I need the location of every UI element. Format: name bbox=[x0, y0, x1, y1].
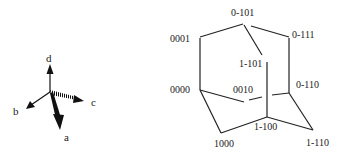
edge-0-101-1-101 bbox=[244, 25, 262, 55]
vertex-label-1-101: 1-101 bbox=[239, 58, 262, 69]
a-axis-arrowhead-icon bbox=[53, 114, 64, 130]
a-axis-label: a bbox=[64, 131, 69, 143]
axis-triad: d b c a bbox=[13, 52, 96, 143]
b-axis-label: b bbox=[13, 105, 19, 117]
b-axis-line bbox=[31, 92, 50, 105]
edge-0001-0-101 bbox=[200, 24, 243, 37]
edge-0010-0-110-a bbox=[249, 97, 262, 100]
b-axis-arrowhead-icon bbox=[26, 101, 35, 109]
edge-0010-0-110-b bbox=[272, 93, 289, 95]
vertex-label-0010: 0010 bbox=[233, 84, 253, 95]
vertex-label-1-110: 1-110 bbox=[306, 137, 329, 148]
figure: d b c a 0-101 0001 0-111 bbox=[0, 0, 344, 157]
vertex-label-0-101: 0-101 bbox=[231, 7, 254, 18]
c-axis-arrowhead-icon bbox=[73, 95, 84, 103]
vertex-label-0001: 0001 bbox=[170, 33, 190, 44]
c-axis-label: c bbox=[91, 96, 96, 108]
edge-0-101-0-111 bbox=[251, 26, 289, 37]
d-axis-arrowhead-icon bbox=[47, 64, 54, 74]
d-axis-label: d bbox=[46, 52, 52, 64]
vertex-label-1-100: 1-100 bbox=[254, 121, 277, 132]
vertex-label-1000: 1000 bbox=[214, 138, 234, 149]
vertex-label-0-111: 0-111 bbox=[292, 29, 315, 40]
edge-0000-1000 bbox=[200, 90, 221, 133]
vertex-label-0-110: 0-110 bbox=[296, 79, 319, 90]
vertex-label-0000: 0000 bbox=[170, 84, 190, 95]
